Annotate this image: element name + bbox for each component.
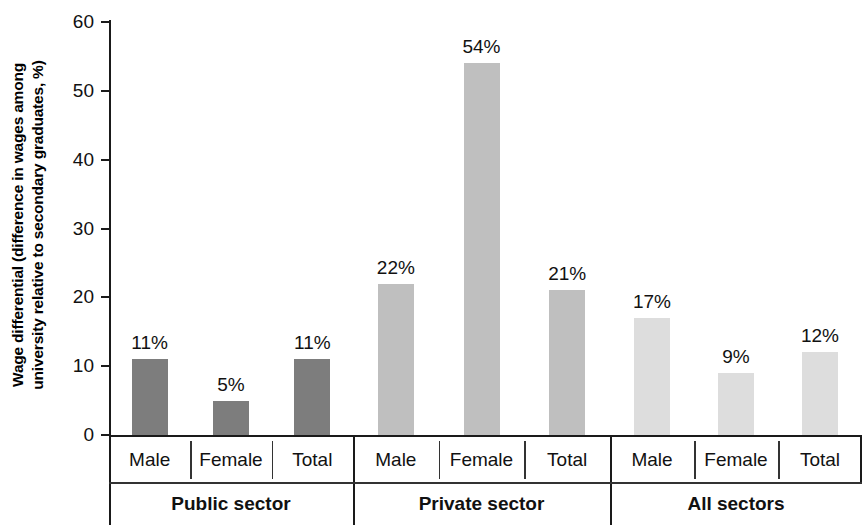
y-tick-mark [101, 365, 110, 367]
bar-public-sector-female [213, 401, 249, 435]
bar-value-label: 21% [548, 263, 586, 285]
category-label-public-sector-female: Female [190, 437, 271, 482]
bar-public-sector-male [132, 359, 168, 435]
y-axis-title-line-1: Wage differential (difference in wages a… [8, 60, 28, 389]
y-tick-label: 10 [50, 355, 94, 377]
group-divider [353, 437, 355, 525]
y-tick-label: 0 [50, 424, 94, 446]
category-divider [778, 441, 780, 479]
category-label-all-sectors-male: Male [610, 437, 694, 482]
bar-value-label: 54% [462, 36, 500, 58]
y-tick-label: 50 [50, 80, 94, 102]
category-row-bottom-rule [109, 482, 862, 484]
bar-value-label: 9% [722, 346, 749, 368]
category-divider [190, 441, 192, 479]
bar-value-label: 17% [633, 291, 671, 313]
category-row: MaleFemaleTotalMaleFemaleTotalMaleFemale… [109, 437, 862, 482]
bar-public-sector-total [294, 359, 330, 435]
category-divider [694, 441, 696, 479]
group-label-all-sectors: All sectors [610, 482, 862, 525]
y-axis-title: Wage differential (difference in wages a… [0, 0, 56, 450]
y-tick-mark [101, 90, 110, 92]
bar-all-sectors-male [634, 318, 670, 435]
category-divider [439, 441, 441, 479]
group-label-private-sector: Private sector [353, 482, 610, 525]
bar-chart-figure: Wage differential (difference in wages a… [0, 0, 863, 525]
y-tick-label: 30 [50, 218, 94, 240]
category-divider [272, 441, 274, 479]
bar-value-label: 22% [377, 257, 415, 279]
y-tick-label: 60 [50, 11, 94, 33]
bar-private-sector-total [549, 290, 585, 435]
category-label-private-sector-female: Female [439, 437, 525, 482]
bar-value-label: 11% [294, 332, 331, 354]
group-divider [610, 437, 612, 525]
bar-value-label: 5% [217, 374, 244, 396]
bar-private-sector-male [378, 284, 414, 435]
category-label-public-sector-total: Total [272, 437, 353, 482]
y-tick-label: 40 [50, 149, 94, 171]
group-row: Public sectorPrivate sectorAll sectors [109, 482, 862, 525]
y-tick-mark [101, 159, 110, 161]
category-label-public-sector-male: Male [109, 437, 190, 482]
category-label-all-sectors-female: Female [694, 437, 778, 482]
table-right-edge [860, 437, 862, 482]
y-tick-label: 20 [50, 286, 94, 308]
y-tick-mark [101, 434, 110, 436]
bar-all-sectors-total [802, 352, 838, 435]
bar-value-label: 12% [801, 325, 839, 347]
bar-value-label: 11% [131, 332, 168, 354]
bar-private-sector-female [464, 63, 500, 435]
y-tick-mark [101, 296, 110, 298]
category-divider [524, 441, 526, 479]
category-label-private-sector-male: Male [353, 437, 439, 482]
group-label-public-sector: Public sector [109, 482, 353, 525]
category-label-all-sectors-total: Total [778, 437, 862, 482]
y-axis-title-line-2: university relative to secondary graduat… [28, 60, 48, 389]
category-label-private-sector-total: Total [524, 437, 610, 482]
plot-area: 11%5%11%22%54%21%17%9%12% [110, 22, 862, 435]
category-group-table: MaleFemaleTotalMaleFemaleTotalMaleFemale… [109, 437, 862, 525]
bar-all-sectors-female [718, 373, 754, 435]
y-tick-mark [101, 228, 110, 230]
y-tick-mark [101, 21, 110, 23]
table-left-edge [109, 437, 111, 525]
